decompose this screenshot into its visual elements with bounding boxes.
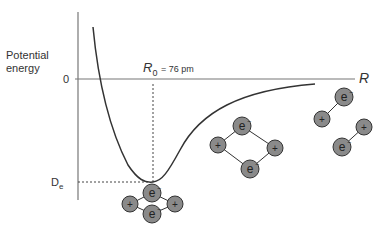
svg-text:e: e: [239, 119, 246, 133]
nucleus-particle: +: [267, 140, 283, 156]
svg-text:e: e: [247, 162, 254, 176]
nucleus-particle: +: [314, 111, 330, 127]
nucleus-particle: +: [356, 119, 372, 135]
svg-text:+: +: [127, 199, 133, 210]
de-symbol: D: [51, 176, 59, 188]
potential-curve: [93, 27, 315, 182]
y-label-line-1: Potential: [6, 49, 49, 62]
electron-particle: e−: [233, 117, 251, 135]
svg-text:+: +: [215, 140, 221, 151]
r0-label: R0 = 76 pm: [143, 61, 194, 80]
nucleus-particle: +: [122, 196, 138, 212]
nucleus-particle: +: [167, 196, 183, 212]
electron-particle: e−: [143, 184, 161, 202]
svg-text:e: e: [149, 207, 156, 221]
r0-symbol: R: [143, 60, 152, 75]
x-axis-label: R: [359, 72, 369, 85]
svg-text:e: e: [341, 90, 348, 104]
svg-text:+: +: [361, 122, 367, 133]
svg-text:−: −: [349, 89, 353, 96]
zero-label: 0: [63, 73, 69, 86]
svg-text:−: −: [247, 118, 251, 125]
svg-text:e: e: [149, 186, 156, 200]
de-sub: e: [59, 182, 63, 191]
electron-particle: e−: [333, 138, 351, 156]
de-label: De: [51, 176, 63, 193]
svg-text:−: −: [347, 139, 351, 146]
electron-particle: e−: [143, 205, 161, 223]
svg-text:+: +: [272, 143, 278, 154]
svg-text:−: −: [157, 185, 161, 192]
electron-particle: e−: [241, 160, 259, 178]
nucleus-particle: +: [210, 137, 226, 153]
svg-text:+: +: [172, 199, 178, 210]
electron-particle: e−: [335, 88, 353, 106]
svg-text:e: e: [339, 140, 346, 154]
svg-text:−: −: [255, 161, 259, 168]
svg-text:+: +: [319, 114, 325, 125]
y-label-line-2: energy: [6, 62, 49, 75]
svg-text:−: −: [157, 206, 161, 213]
r0-sub: 0: [152, 68, 157, 78]
y-axis-label: Potential energy: [6, 49, 49, 75]
potential-energy-diagram: +e−e−+e−++e−e−++e−: [0, 0, 379, 231]
r0-value: = 76 pm: [161, 64, 194, 74]
